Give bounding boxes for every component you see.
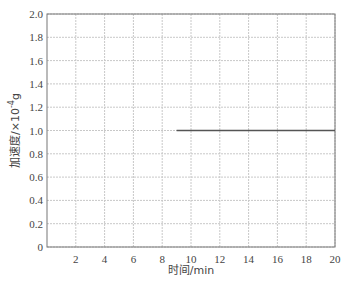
- x-axis-label: 时间/min: [168, 264, 214, 277]
- y-axis-label-main: 加速度/×10: [8, 108, 22, 168]
- y-axis-ticks: 00.20.40.60.81.01.21.41.61.82.0: [29, 8, 43, 253]
- y-axis-label-exponent: -4: [7, 100, 16, 108]
- y-tick-label: 1.6: [29, 55, 43, 67]
- y-tick-label: 1.0: [29, 125, 43, 137]
- y-tick-label: 0: [38, 241, 44, 253]
- x-tick-label: 8: [159, 253, 165, 265]
- y-tick-label: 0.2: [29, 218, 43, 230]
- x-tick-label: 18: [301, 253, 313, 265]
- y-tick-label: 1.2: [29, 101, 43, 113]
- line-chart: 00.20.40.60.81.01.21.41.61.82.0 24681012…: [0, 0, 351, 290]
- x-tick-label: 12: [214, 253, 225, 265]
- y-tick-label: 1.8: [29, 31, 43, 43]
- x-tick-label: 4: [102, 253, 108, 265]
- y-tick-label: 2.0: [29, 8, 43, 20]
- x-tick-label: 20: [330, 253, 342, 265]
- x-tick-label: 6: [131, 253, 137, 265]
- y-axis-label: 加速度/×10-4g: [7, 93, 22, 168]
- x-tick-label: 2: [73, 253, 79, 265]
- y-axis-label-unit: g: [9, 93, 22, 100]
- x-tick-label: 16: [272, 253, 284, 265]
- y-tick-label: 0.4: [29, 194, 43, 206]
- y-tick-label: 1.4: [29, 78, 43, 90]
- y-tick-label: 0.6: [29, 171, 43, 183]
- x-tick-label: 14: [243, 253, 255, 265]
- y-tick-label: 0.8: [29, 148, 43, 160]
